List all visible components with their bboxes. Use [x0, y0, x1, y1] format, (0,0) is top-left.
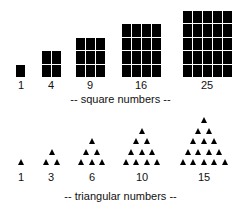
square-cell: [213, 51, 222, 64]
square-cell: [183, 24, 192, 37]
square-cell: [52, 65, 61, 78]
square-cell: [152, 65, 161, 78]
triangle-icon: [128, 149, 134, 155]
square-cell: [96, 65, 105, 78]
square-cell: [223, 38, 232, 51]
triangle-icon: [139, 128, 145, 134]
square-cell: [183, 51, 192, 64]
square-cell: [122, 24, 131, 37]
square-cell: [223, 51, 232, 64]
triangular-number-label: 6: [77, 171, 107, 183]
triangle-icon: [180, 159, 186, 165]
square-cell: [193, 51, 202, 64]
triangular-number-label: 3: [36, 171, 66, 183]
square-cell: [213, 24, 222, 37]
square-cell: [132, 24, 141, 37]
square-cell: [142, 51, 151, 64]
square-cell: [203, 24, 212, 37]
triangle-icon: [144, 138, 150, 144]
square-cell: [122, 65, 131, 78]
triangle-icon: [216, 149, 222, 155]
square-cell: [183, 11, 192, 24]
square-grid-9: [76, 38, 105, 78]
triangle-icon: [89, 159, 95, 165]
triangle-icon: [49, 149, 55, 155]
square-cell: [152, 38, 161, 51]
triangle-icon: [149, 149, 155, 155]
square-cell: [96, 51, 105, 64]
triangle-icon: [133, 159, 139, 165]
triangle-icon: [99, 159, 105, 165]
square-cell: [203, 65, 212, 78]
triangle-icon: [206, 128, 212, 134]
square-cell: [122, 38, 131, 51]
square-number-label: 25: [192, 79, 222, 91]
square-cell: [203, 38, 212, 51]
triangle-icon: [185, 149, 191, 155]
square-cell: [86, 51, 95, 64]
square-cell: [193, 24, 202, 37]
square-cell: [132, 51, 141, 64]
square-cell: [132, 38, 141, 51]
triangle-icon: [83, 149, 89, 155]
triangular-number-label: 1: [6, 171, 36, 183]
square-cell: [203, 11, 212, 24]
triangle-icon: [201, 138, 207, 144]
triangular-number-label: 10: [127, 171, 157, 183]
triangle-icon: [201, 117, 207, 123]
triangle-icon: [94, 149, 100, 155]
triangle-icon: [195, 149, 201, 155]
square-grid-16: [122, 24, 161, 77]
triangular-numbers-caption: -- triangular numbers --: [0, 190, 241, 202]
square-numbers-caption: -- square numbers --: [0, 93, 241, 105]
square-cell: [86, 65, 95, 78]
square-cell: [223, 11, 232, 24]
square-cell: [142, 65, 151, 78]
square-number-label: 9: [75, 79, 105, 91]
square-cell: [213, 65, 222, 78]
square-cell: [183, 38, 192, 51]
square-cell: [223, 24, 232, 37]
square-grid-25: [183, 11, 232, 78]
triangle-icon: [211, 159, 217, 165]
triangle-icon: [154, 159, 160, 165]
square-cell: [42, 51, 51, 64]
triangle-icon: [89, 138, 95, 144]
triangle-icon: [190, 138, 196, 144]
square-cell: [193, 65, 202, 78]
square-cell: [152, 24, 161, 37]
square-cell: [183, 65, 192, 78]
triangle-icon: [222, 159, 228, 165]
square-cell: [203, 51, 212, 64]
square-cell: [42, 65, 51, 78]
triangle-icon: [18, 159, 24, 165]
triangle-icon: [201, 159, 207, 165]
square-cell: [193, 11, 202, 24]
square-cell: [16, 65, 25, 78]
square-number-label: 16: [126, 79, 156, 91]
square-number-label: 1: [6, 79, 36, 91]
square-cell: [132, 65, 141, 78]
triangle-icon: [206, 149, 212, 155]
triangle-icon: [43, 159, 49, 165]
square-cell: [142, 24, 151, 37]
triangle-icon: [123, 159, 129, 165]
square-cell: [223, 65, 232, 78]
square-number-label: 4: [36, 79, 66, 91]
triangular-number-label: 15: [189, 171, 219, 183]
square-cell: [193, 38, 202, 51]
square-cell: [76, 51, 85, 64]
square-cell: [122, 51, 131, 64]
square-cell: [213, 38, 222, 51]
square-cell: [213, 11, 222, 24]
triangle-icon: [54, 159, 60, 165]
triangle-icon: [144, 159, 150, 165]
triangle-icon: [211, 138, 217, 144]
triangle-icon: [78, 159, 84, 165]
square-cell: [152, 51, 161, 64]
square-cell: [76, 65, 85, 78]
square-cell: [142, 38, 151, 51]
triangle-icon: [139, 149, 145, 155]
triangle-icon: [190, 159, 196, 165]
square-cell: [52, 51, 61, 64]
